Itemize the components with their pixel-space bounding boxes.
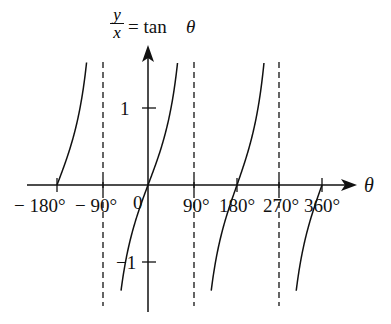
tan-graph [0, 0, 391, 324]
tan-curves [57, 62, 322, 290]
y-axis-label-theta: θ [186, 17, 195, 36]
x-tick-label-180: 180° [219, 196, 255, 215]
y-tick-label-neg1: −1 [116, 253, 136, 272]
y-tick-label-1: 1 [120, 99, 130, 118]
y-axis-label-numerator: y [110, 6, 124, 24]
x-tick-label-270: 270° [263, 196, 299, 215]
tan-curve-branch [57, 62, 87, 185]
x-tick-label-neg90: − 90° [75, 196, 117, 215]
x-axis-label: θ [364, 175, 374, 195]
x-tick-label-360: 360° [304, 196, 340, 215]
y-axis-label-denominator: x [110, 24, 124, 41]
x-tick-label-90: 90° [183, 196, 210, 215]
y-axis-label-fraction: y x [110, 6, 124, 41]
tan-curve-branch [211, 63, 264, 291]
x-tick-label-0: 0 [133, 193, 143, 212]
y-axis-label-rhs: = tan [128, 17, 167, 36]
x-tick-label-neg180: − 180° [14, 196, 66, 215]
axes [27, 45, 357, 312]
